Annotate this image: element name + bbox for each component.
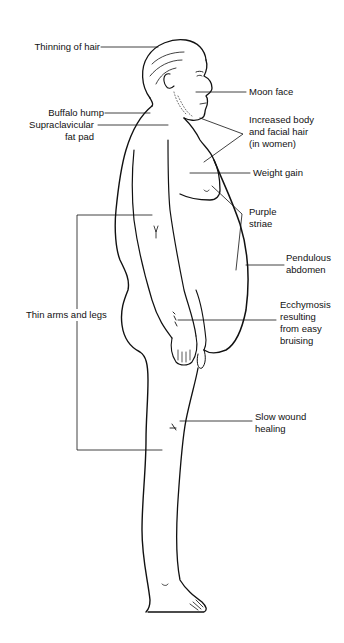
label-buffalo-hump: Buffalo hump — [30, 107, 104, 119]
leader-body-hair — [200, 118, 243, 162]
label-weight-gain: Weight gain — [253, 167, 303, 179]
leader-lines — [77, 47, 284, 450]
label-pendulous: Pendulous — [286, 252, 331, 264]
label-and-facial-hair: and facial hair — [249, 126, 308, 138]
label-ecchymosis: Ecchymosis — [280, 299, 331, 311]
diagram-canvas: Thinning of hair Buffalo hump Supraclavi… — [0, 0, 344, 643]
label-resulting: resulting — [280, 311, 316, 323]
label-fat-pad: fat pad — [10, 131, 94, 143]
label-supraclavicular: Supraclavicular — [10, 119, 94, 131]
label-moon-face: Moon face — [249, 86, 293, 98]
label-increased-body: Increased body — [249, 114, 314, 126]
label-striae: striae — [249, 218, 272, 230]
head-drawing — [143, 40, 212, 121]
label-thinning-of-hair: Thinning of hair — [20, 41, 100, 53]
bracket-thin-limbs — [77, 215, 162, 450]
label-abdomen: abdomen — [286, 264, 326, 276]
label-from-easy: from easy — [280, 323, 322, 335]
body-drawing — [115, 106, 248, 612]
label-slow-wound: Slow wound — [255, 411, 306, 423]
label-in-women: (in women) — [249, 138, 296, 150]
label-thin-arms-and-legs: Thin arms and legs — [25, 309, 108, 321]
label-bruising: bruising — [280, 335, 313, 347]
label-purple: Purple — [249, 206, 276, 218]
label-healing: healing — [255, 423, 286, 435]
